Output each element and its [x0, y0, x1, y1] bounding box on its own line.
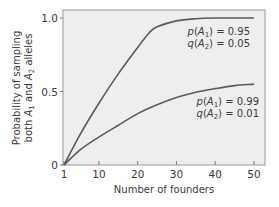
y-axis-title: Probability of sampling both A1 and A2 a…: [11, 31, 36, 146]
x-tick-label: 1: [61, 168, 68, 180]
x-tick-label: 50: [247, 168, 260, 180]
y-tick-label: 0: [51, 159, 58, 171]
x-tick-label: 30: [170, 168, 183, 180]
x-tick-label: 10: [92, 168, 105, 180]
founder-probability-chart: 00.51.0 11020304050 Number of founders P…: [0, 0, 279, 207]
x-tick-label: 20: [131, 168, 144, 180]
y-tick-label: 1.0: [41, 12, 58, 24]
y-axis-ticks: 00.51.0: [41, 12, 63, 171]
x-axis-title: Number of founders: [114, 184, 214, 195]
y-tick-label: 0.5: [41, 86, 58, 98]
series-label-lower: p(A1) = 0.99 q(A2) = 0.01: [196, 96, 259, 121]
y-axis-title-line2: both A1 and A2 alleles: [23, 34, 36, 143]
x-tick-label: 40: [209, 168, 222, 180]
series-label-upper: p(A1) = 0.95 q(A2) = 0.05: [187, 26, 250, 51]
y-axis-title-line1: Probability of sampling: [11, 31, 22, 146]
